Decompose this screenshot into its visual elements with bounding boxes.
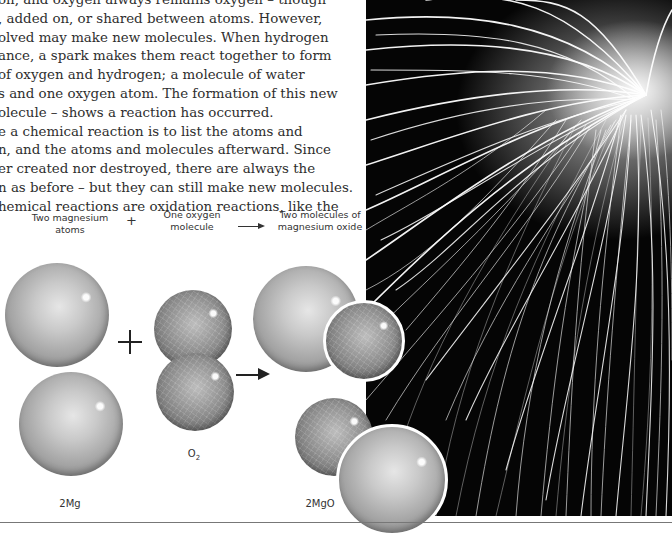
product-label: Two molecules of magnesium oxide	[268, 209, 372, 232]
yields-arrow-small-icon	[238, 226, 260, 227]
oxygen-atom-2	[156, 353, 234, 431]
text-line: n as before – but they can still make ne…	[0, 179, 360, 198]
magnesium-formula: 2Mg	[45, 498, 95, 510]
text-line: olved may make new molecules. When hydro…	[0, 29, 360, 48]
reactant2-label-line2: molecule	[150, 221, 234, 233]
text-line: olecule – shows a reaction has occurred.	[0, 104, 360, 123]
oxygen-formula-base: O	[188, 448, 196, 459]
yields-arrowhead-icon	[258, 368, 270, 380]
reactant2-label: One oxygen molecule	[150, 209, 234, 232]
magnesium-oxide-formula: 2MgO	[295, 498, 345, 510]
mgo-magnesium-atom-2	[336, 424, 448, 536]
reactant1-label: Two magnesium atoms	[20, 212, 120, 235]
reactant1-label-line2: atoms	[20, 224, 120, 236]
mgo-oxygen-atom-1	[323, 300, 405, 382]
product-label-line2: magnesium oxide	[268, 221, 372, 233]
plus-sign-small: +	[126, 213, 137, 228]
text-line: n, and the atoms and molecules afterward…	[0, 141, 360, 160]
body-text: on, and oxygen always remains oxygen – t…	[0, 0, 360, 217]
reactant1-label-line1: Two magnesium	[20, 212, 120, 224]
magnesium-atom-1	[5, 263, 109, 367]
text-line: e a chemical reaction is to list the ato…	[0, 123, 360, 142]
text-line: , added on, or shared between atoms. How…	[0, 10, 360, 29]
plus-icon	[118, 330, 142, 354]
text-line: er created nor destroyed, there are alwa…	[0, 160, 360, 179]
yields-arrowhead-small-icon	[258, 223, 265, 229]
magnesium-atom-2	[19, 372, 123, 476]
text-line: s and one oxygen atom. The formation of …	[0, 85, 360, 104]
yields-arrow-icon	[236, 374, 260, 376]
oxygen-formula-subscript: 2	[196, 454, 200, 462]
text-line: of oxygen and hydrogen; a molecule of wa…	[0, 66, 360, 85]
reactant2-label-line1: One oxygen	[150, 209, 234, 221]
text-line: ance, a spark makes them react together …	[0, 47, 360, 66]
product-label-line1: Two molecules of	[268, 209, 372, 221]
page-rule-divider	[0, 522, 672, 523]
text-line: on, and oxygen always remains oxygen – t…	[0, 0, 360, 10]
oxygen-formula: O2	[174, 448, 214, 465]
